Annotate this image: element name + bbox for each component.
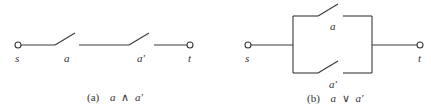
caption-b-left: a	[331, 92, 337, 104]
label-s: s	[245, 52, 249, 64]
caption-a-op: ∧	[121, 91, 129, 103]
label-t: t	[418, 52, 422, 64]
switching-circuits-figure: s a a' t (a) a ∧ a' s a a' t (b) a	[0, 0, 431, 108]
label-a-prime: a'	[137, 52, 146, 64]
label-a: a	[330, 20, 336, 32]
source-terminal	[15, 42, 21, 48]
caption-b-tag: (b)	[307, 92, 320, 105]
caption-b-right: a'	[356, 92, 365, 104]
caption-b: (b) a ∨ a'	[307, 92, 364, 105]
switch-a	[318, 4, 338, 16]
switch-a-prime	[318, 61, 338, 73]
switch-a-prime	[129, 33, 149, 45]
caption-a: (a) a ∧ a'	[87, 91, 143, 104]
series-circuit: s a a' t (a) a ∧ a'	[15, 33, 193, 104]
caption-b-op: ∨	[342, 92, 350, 104]
label-a: a	[64, 52, 70, 64]
label-s: s	[15, 52, 19, 64]
label-t: t	[188, 52, 192, 64]
label-a-prime: a'	[329, 78, 338, 90]
switch-a	[55, 33, 75, 45]
caption-a-right: a'	[135, 91, 144, 103]
caption-a-left: a	[110, 91, 116, 103]
sink-terminal	[187, 42, 193, 48]
sink-terminal	[417, 42, 423, 48]
caption-a-tag: (a)	[87, 91, 100, 104]
parallel-circuit: s a a' t (b) a ∨ a'	[245, 4, 423, 105]
source-terminal	[245, 42, 251, 48]
